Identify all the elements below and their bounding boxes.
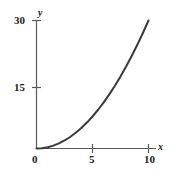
x-axis-tick-label-10: 10 (144, 154, 155, 165)
x-axis-tick-label-5: 5 (89, 154, 95, 165)
y-axis-tick-label-30: 30 (14, 15, 25, 26)
chart-figure: 30 15 0 5 10 y x (0, 0, 171, 179)
data-curve (37, 21, 149, 149)
y-axis-tick-label-15: 15 (14, 82, 25, 93)
y-axis-title: y (38, 8, 42, 18)
x-axis-tick-label-0: 0 (32, 154, 38, 165)
x-axis-title: x (158, 142, 163, 152)
